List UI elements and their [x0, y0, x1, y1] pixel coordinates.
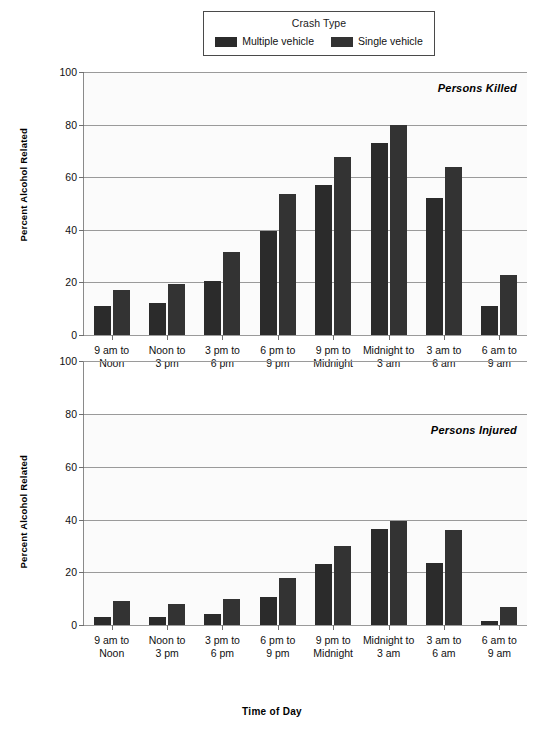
x-tick-mark	[112, 335, 113, 340]
x-tick-mark	[389, 625, 390, 630]
bar-multiple-vehicle	[94, 617, 111, 625]
bar-group: 9 pm toMidnight	[306, 72, 361, 335]
x-tick-mark	[444, 625, 445, 630]
bar-multiple-vehicle	[260, 597, 277, 625]
bar-multiple-vehicle	[371, 529, 388, 625]
bar-multiple-vehicle	[426, 563, 443, 625]
y-tick-label: 60	[65, 461, 77, 473]
y-tick-mark	[79, 335, 84, 336]
bar-group: 9 pm toMidnight	[306, 414, 361, 625]
bar-single-vehicle	[168, 284, 185, 335]
bar-single-vehicle	[223, 599, 240, 625]
bar-multiple-vehicle	[94, 306, 111, 335]
legend: Crash Type Multiple vehicle Single vehic…	[203, 11, 435, 56]
x-axis-title: Time of Day	[0, 706, 544, 717]
bar-multiple-vehicle	[204, 281, 221, 335]
bar-group: 9 am toNoon	[84, 414, 139, 625]
bar-group: Noon to3 pm	[139, 414, 194, 625]
y-tick-label: 20	[65, 276, 77, 288]
bar-single-vehicle	[445, 167, 462, 335]
bar-multiple-vehicle	[204, 614, 221, 625]
x-tick-mark	[278, 335, 279, 340]
bar-multiple-vehicle	[260, 231, 277, 335]
bar-multiple-vehicle	[481, 306, 498, 335]
x-tick-mark	[167, 625, 168, 630]
bar-single-vehicle	[168, 604, 185, 625]
x-tick-mark	[167, 335, 168, 340]
bars-layer-injured: 9 am toNoonNoon to3 pm3 pm to6 pm6 pm to…	[84, 414, 527, 625]
bar-single-vehicle	[334, 546, 351, 625]
bar-single-vehicle	[445, 530, 462, 625]
y-tick-label: 40	[65, 224, 77, 236]
y-tick-label: 100	[59, 355, 77, 367]
plot-wrap-injured: Persons Injured 020406080100 9 am toNoon…	[83, 414, 527, 626]
x-tick-mark	[499, 335, 500, 340]
bar-group: 3 am to6 am	[416, 414, 471, 625]
x-tick-label-line2: 9 am	[463, 357, 535, 370]
plot-area-killed: Persons Killed 020406080100 9 am toNoonN…	[83, 72, 527, 336]
bar-group: 3 pm to6 pm	[195, 72, 250, 335]
legend-label-single-vehicle: Single vehicle	[358, 36, 423, 47]
x-tick-mark	[222, 335, 223, 340]
bar-group: 6 am to9 am	[472, 72, 527, 335]
y-tick-label: 20	[65, 566, 77, 578]
bar-multiple-vehicle	[315, 564, 332, 625]
bar-group: 6 pm to9 pm	[250, 414, 305, 625]
gridline	[84, 335, 527, 336]
bar-single-vehicle	[113, 601, 130, 625]
bar-single-vehicle	[279, 194, 296, 335]
bar-group: 6 am to9 am	[472, 414, 527, 625]
bar-single-vehicle	[390, 521, 407, 625]
legend-swatch-multiple-vehicle	[215, 37, 237, 47]
bar-single-vehicle	[500, 607, 517, 625]
x-tick-label-line1: 6 am to	[463, 344, 535, 357]
y-tick-label: 60	[65, 171, 77, 183]
x-tick-mark	[389, 335, 390, 340]
x-tick-mark	[333, 625, 334, 630]
y-tick-label: 100	[59, 66, 77, 78]
x-tick-label-line2: 9 am	[463, 647, 535, 660]
plot-area-injured: Persons Injured 020406080100 9 am toNoon…	[83, 414, 527, 626]
bar-single-vehicle	[390, 125, 407, 335]
y-axis-spine-extension	[83, 361, 84, 414]
legend-entries: Multiple vehicle Single vehicle	[204, 36, 434, 47]
bar-multiple-vehicle	[315, 185, 332, 335]
y-tick-label: 40	[65, 514, 77, 526]
chart-panel-persons-injured: Persons Injured 020406080100 9 am toNoon…	[0, 405, 544, 731]
chart-panel-persons-killed: Persons Killed 020406080100 9 am toNoonN…	[0, 62, 544, 392]
bar-group: 3 am to6 am	[416, 72, 471, 335]
bar-single-vehicle	[223, 252, 240, 335]
legend-entry-multiple-vehicle: Multiple vehicle	[215, 36, 314, 47]
bar-single-vehicle	[279, 578, 296, 625]
x-tick-mark	[444, 335, 445, 340]
y-tick-label: 0	[71, 329, 77, 341]
bar-group: 3 pm to6 pm	[195, 414, 250, 625]
legend-title: Crash Type	[204, 18, 434, 29]
x-tick-label: 6 am to9 am	[463, 344, 535, 370]
bar-multiple-vehicle	[426, 198, 443, 335]
y-tick-label: 80	[65, 408, 77, 420]
plot-wrap-killed: Persons Killed 020406080100 9 am toNoonN…	[83, 72, 527, 336]
bar-single-vehicle	[500, 275, 517, 335]
gridline	[84, 625, 527, 626]
bar-multiple-vehicle	[371, 143, 388, 335]
gridline	[84, 361, 527, 362]
legend-swatch-single-vehicle	[331, 37, 353, 47]
legend-entry-single-vehicle: Single vehicle	[331, 36, 423, 47]
bar-group: Midnight to3 am	[361, 72, 416, 335]
legend-label-multiple-vehicle: Multiple vehicle	[242, 36, 314, 47]
bar-single-vehicle	[334, 157, 351, 335]
x-tick-label: 6 am to9 am	[463, 634, 535, 660]
x-tick-mark	[278, 625, 279, 630]
bar-group: 6 pm to9 pm	[250, 72, 305, 335]
y-tick-mark	[79, 625, 84, 626]
x-tick-label-line1: 6 am to	[463, 634, 535, 647]
bar-multiple-vehicle	[149, 303, 166, 335]
x-tick-mark	[333, 335, 334, 340]
bar-group: 9 am toNoon	[84, 72, 139, 335]
bar-multiple-vehicle	[149, 617, 166, 625]
y-tick-label: 80	[65, 119, 77, 131]
bar-group: Noon to3 pm	[139, 72, 194, 335]
bar-group: Midnight to3 am	[361, 414, 416, 625]
bar-single-vehicle	[113, 290, 130, 335]
